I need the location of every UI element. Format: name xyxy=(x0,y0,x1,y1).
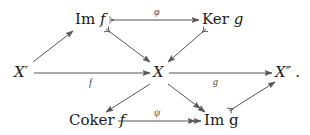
node-x-var: X xyxy=(153,63,164,81)
node-im-g-prefix: Im xyxy=(204,111,229,129)
node-im-f: Im f xyxy=(75,12,105,27)
node-ker-g: Ker g xyxy=(202,12,243,27)
arrow-img-to-xdprime xyxy=(229,82,275,111)
arrow-x-to-cokerf xyxy=(106,84,150,112)
commutative-diagram: Im f Ker g X′ X X″. Coker f Im g φ f g ψ xyxy=(0,0,310,135)
edge-label-f: f xyxy=(89,78,92,88)
node-im-f-prefix: Im xyxy=(75,10,100,28)
node-ker-g-prefix: Ker xyxy=(202,10,234,28)
arrow-xprime-to-imf xyxy=(33,31,73,62)
node-coker-f: Coker f xyxy=(69,113,125,128)
arrow-imf-to-x xyxy=(106,29,150,62)
node-x-double-prime-period: . xyxy=(295,63,300,81)
node-x-double-prime-var: X″ xyxy=(275,63,291,81)
node-im-g-var: g xyxy=(229,111,239,129)
node-im-f-var: f xyxy=(100,10,106,28)
edge-label-psi: ψ xyxy=(154,108,160,118)
edge-label-g: g xyxy=(213,77,218,87)
edge-label-phi: φ xyxy=(154,7,160,17)
node-x: X xyxy=(153,65,164,80)
node-coker-f-var: f xyxy=(119,111,125,129)
arrow-x-to-img xyxy=(168,84,205,112)
node-coker-f-prefix: Coker xyxy=(69,111,119,129)
node-im-g: Im g xyxy=(204,113,239,128)
node-x-prime: X′ xyxy=(14,65,28,80)
arrow-kerg-to-x xyxy=(168,29,206,62)
node-x-double-prime: X″. xyxy=(275,65,300,80)
node-ker-g-var: g xyxy=(234,10,244,28)
node-x-prime-var: X′ xyxy=(14,63,28,81)
